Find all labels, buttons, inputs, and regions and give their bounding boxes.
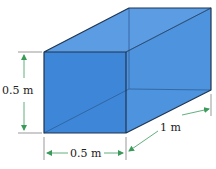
height-dimension: 0.5 m xyxy=(2,52,42,133)
box-diagram: 0.5 m 0.5 m 1 m xyxy=(0,0,216,169)
width-dimension: 0.5 m xyxy=(44,137,126,160)
width-label: 0.5 m xyxy=(70,147,102,160)
length-label: 1 m xyxy=(160,121,181,134)
height-label: 0.5 m xyxy=(2,84,34,97)
box-front-face xyxy=(44,52,126,133)
